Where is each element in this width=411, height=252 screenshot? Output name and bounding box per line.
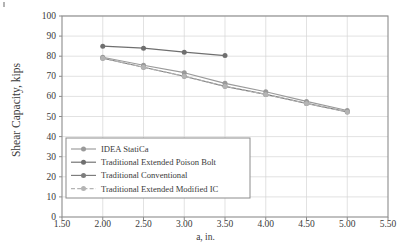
legend-marker-2 [81, 160, 86, 165]
data-point [141, 46, 146, 51]
data-point [223, 53, 228, 58]
chart-container: Shear Capacity, kips a, in. 010203040506… [0, 0, 411, 252]
data-point [304, 101, 309, 106]
series-line [103, 46, 225, 55]
data-point [223, 84, 228, 89]
data-point [182, 74, 187, 79]
legend-label-2: Traditional Extended Poison Bolt [101, 157, 217, 167]
legend-marker-4 [81, 186, 86, 191]
chart-legend: IDEA StatiCaTraditional Extended Poison … [66, 138, 250, 198]
data-point [345, 109, 350, 114]
data-point [100, 56, 105, 61]
data-point [263, 92, 268, 97]
data-point [182, 50, 187, 55]
data-point [141, 65, 146, 70]
legend-label-3: Traditional Conventional [101, 170, 188, 180]
legend-marker-3 [81, 173, 86, 178]
legend-label-4: Traditional Extended Modified IC [101, 184, 219, 194]
plot-canvas: IDEA StatiCaTraditional Extended Poison … [0, 0, 411, 252]
data-point [100, 44, 105, 49]
legend-marker-1 [81, 147, 86, 152]
legend-label-1: IDEA StatiCa [101, 144, 149, 154]
